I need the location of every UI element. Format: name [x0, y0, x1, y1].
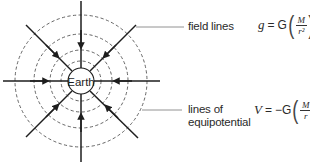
eq-v-equals: =: [265, 103, 272, 117]
eq-g-const: G: [278, 18, 287, 32]
equipotential-text-1: lines of: [188, 103, 251, 116]
equipotential-text-2: equipotential: [188, 116, 251, 129]
earth-label: Earth: [67, 76, 95, 88]
eq-g-equals: =: [268, 18, 275, 32]
eq-g-numerator: M: [296, 15, 308, 25]
eq-g-lhs: g: [258, 17, 265, 33]
field-line-bottom-left-arrow: [46, 106, 57, 117]
eq-v-numerator: M: [300, 100, 310, 110]
field-strength-equation: g = G ( M r² ): [258, 12, 310, 38]
field-line-top-left-arrow: [46, 45, 57, 56]
eq-g-fraction: M r²: [296, 15, 308, 36]
eq-v-open-paren: (: [293, 97, 299, 123]
eq-v-lhs: V: [254, 102, 262, 118]
field-lines-text: field lines: [188, 20, 234, 32]
eq-g-open-paren: (: [288, 12, 294, 38]
equipotential-label: lines of equipotential: [188, 103, 251, 129]
eq-g-denominator: r²: [296, 26, 306, 36]
eq-v-denominator: r: [302, 111, 310, 121]
field-line-top-right-arrow: [105, 45, 116, 56]
eq-g-close-paren: ): [308, 12, 310, 38]
potential-equation: V = −G ( M r ): [254, 97, 310, 123]
eq-v-fraction: M r: [300, 100, 310, 121]
field-lines-label: field lines: [188, 20, 234, 33]
eq-v-const: −G: [275, 103, 291, 117]
